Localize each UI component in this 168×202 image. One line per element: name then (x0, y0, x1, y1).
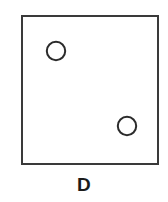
figure-panel: D (0, 0, 168, 202)
circle-top-left (47, 42, 65, 60)
circle-bottom-right (118, 117, 136, 135)
square-container (22, 16, 158, 164)
panel-label: D (0, 174, 168, 196)
figure-canvas (0, 0, 168, 202)
